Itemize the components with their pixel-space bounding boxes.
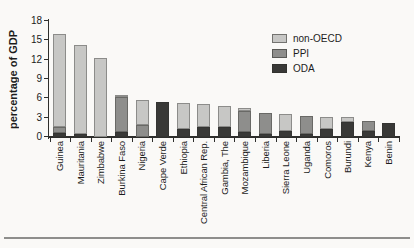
y-tick-label: 12 xyxy=(16,54,42,66)
category-label: Comoros xyxy=(321,141,332,179)
y-tick-label: 6 xyxy=(16,92,42,104)
category-label: Nigeria xyxy=(137,141,148,170)
x-tick xyxy=(276,138,277,142)
bar-segment xyxy=(197,127,210,137)
bar-segment xyxy=(74,134,87,137)
category-label: Zimbabwe xyxy=(95,141,106,184)
x-tick xyxy=(317,138,318,142)
x-tick xyxy=(193,138,194,142)
bar-segment xyxy=(177,103,190,129)
category-label: Mauritania xyxy=(75,141,86,184)
bar-segment xyxy=(320,117,333,129)
category-label: Liberia xyxy=(260,141,271,169)
x-tick xyxy=(399,138,400,142)
bar-segment xyxy=(341,122,354,137)
bar-segment xyxy=(279,131,292,137)
x-tick xyxy=(111,138,112,142)
x-tick xyxy=(296,138,297,142)
bar-segment xyxy=(156,102,169,137)
y-tick xyxy=(44,97,48,98)
legend-label: non-OECD xyxy=(293,33,342,44)
legend: non-OECDPPIODA xyxy=(272,31,342,76)
x-tick xyxy=(358,138,359,142)
bar-segment xyxy=(115,97,128,132)
legend-swatch xyxy=(272,64,287,73)
bar-segment xyxy=(300,116,313,134)
bar-segment xyxy=(238,108,251,111)
bar-segment xyxy=(115,132,128,137)
bar-segment xyxy=(94,58,107,137)
x-tick xyxy=(214,138,215,142)
category-label: Burundi xyxy=(342,141,353,173)
category-label: Ethiopia xyxy=(178,141,189,175)
bar-segment xyxy=(115,95,128,97)
category-label: Sierra Leone xyxy=(280,141,291,194)
category-label: Gambia, The xyxy=(219,141,230,195)
bar-segment xyxy=(382,123,395,137)
x-tick xyxy=(234,138,235,142)
x-tick xyxy=(91,138,92,142)
y-tick xyxy=(44,20,48,21)
bar-segment xyxy=(197,104,210,127)
legend-label: PPI xyxy=(293,48,309,59)
bar-segment xyxy=(53,127,66,133)
bar-segment xyxy=(259,113,272,135)
bar-segment xyxy=(136,100,149,125)
bar-segment xyxy=(362,131,375,137)
y-tick-label: 9 xyxy=(16,73,42,85)
category-label: Kenya xyxy=(363,141,374,167)
bar-segment xyxy=(238,132,251,137)
bar-segment xyxy=(218,127,231,137)
x-tick xyxy=(173,138,174,142)
bar-segment xyxy=(238,111,251,132)
x-tick xyxy=(337,138,338,142)
legend-swatch xyxy=(272,49,287,58)
bar-segment xyxy=(300,134,313,137)
bar-segment xyxy=(320,129,333,137)
legend-item: PPI xyxy=(272,46,342,61)
category-label: Benin xyxy=(383,141,394,165)
y-tick-label: 3 xyxy=(16,112,42,124)
bar-segment xyxy=(53,133,66,137)
x-tick xyxy=(152,138,153,142)
x-tick xyxy=(132,138,133,142)
bar-segment xyxy=(362,121,375,131)
legend-item: ODA xyxy=(272,61,342,76)
legend-label: ODA xyxy=(293,63,315,74)
legend-item: non-OECD xyxy=(272,31,342,46)
y-tick xyxy=(44,117,48,118)
x-tick xyxy=(255,138,256,142)
x-tick xyxy=(50,138,51,142)
bar-segment xyxy=(259,134,272,137)
bar-segment xyxy=(279,114,292,130)
bar-segment xyxy=(74,45,87,135)
x-tick xyxy=(70,138,71,142)
bar-segment xyxy=(341,117,354,121)
legend-swatch xyxy=(272,34,287,43)
category-label: Guinea xyxy=(54,141,65,171)
y-tick xyxy=(44,136,48,137)
category-label: Uganda xyxy=(301,141,312,174)
y-tick-label: 18 xyxy=(16,15,42,27)
category-label: Burkina Faso xyxy=(116,141,127,196)
bar-segment xyxy=(136,125,149,137)
y-tick xyxy=(44,39,48,40)
y-tick-label: 15 xyxy=(16,34,42,46)
y-tick xyxy=(44,59,48,60)
y-axis-line xyxy=(48,19,49,139)
page-rule xyxy=(4,237,410,239)
bar-segment xyxy=(218,106,231,127)
stacked-bar-chart-figure: percentage of GDP 0369121518GuineaMaurit… xyxy=(0,0,414,248)
category-label: Cape Verde xyxy=(157,141,168,190)
category-label: Central African Rep. xyxy=(198,141,209,224)
x-tick xyxy=(378,138,379,142)
y-tick-label: 0 xyxy=(16,131,42,143)
category-label: Mozambique xyxy=(239,141,250,194)
y-tick xyxy=(44,78,48,79)
bar-segment xyxy=(177,129,190,137)
bar-segment xyxy=(53,34,66,127)
